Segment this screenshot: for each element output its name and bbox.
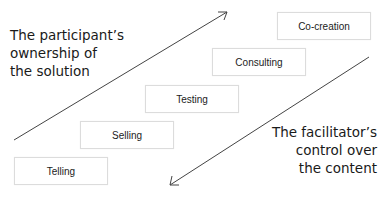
facilitator-control-line-3: the content [272,159,377,177]
step-selling: Selling [80,121,174,149]
facilitator-control-label: The facilitator’s control over the conte… [272,123,377,177]
participant-ownership-line-3: the solution [10,62,124,80]
participant-ownership-line-1: The participant’s [10,26,124,44]
facilitator-control-line-2: control over [272,141,377,159]
step-co-creation: Co-creation [277,12,371,40]
participant-ownership-label: The participant’s ownership of the solut… [10,26,124,80]
step-consulting: Consulting [212,48,306,76]
step-testing: Testing [145,85,239,113]
participant-ownership-line-2: ownership of [10,44,124,62]
facilitator-control-line-1: The facilitator’s [272,123,377,141]
step-telling: Telling [14,157,108,185]
